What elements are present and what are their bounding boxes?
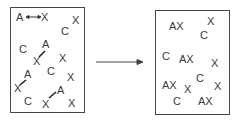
molecule-label: A — [57, 85, 64, 96]
molecule-label: A — [42, 39, 49, 50]
molecule-label: X — [184, 84, 191, 95]
molecule-label: X — [14, 83, 21, 94]
molecule-label: X — [72, 15, 79, 26]
molecule-label: X — [68, 98, 75, 109]
molecule-label: X — [214, 81, 221, 92]
molecule-label: C — [200, 30, 208, 41]
molecule-label: C — [19, 44, 27, 55]
molecule-label: AX — [179, 54, 194, 65]
molecule-label: X — [59, 53, 66, 64]
molecule-label: AX — [198, 96, 213, 107]
molecule-label: X — [67, 72, 74, 83]
molecule-label: A — [16, 12, 23, 23]
molecule-label: X — [42, 99, 49, 110]
molecule-label: A — [24, 69, 31, 80]
molecule-label: X — [33, 56, 40, 67]
molecule-label: C — [162, 51, 170, 62]
molecule-label: C — [61, 26, 69, 37]
molecule-label: X — [41, 12, 48, 23]
molecule-label: X — [207, 16, 214, 27]
molecule-label: C — [24, 96, 32, 107]
molecule-label: C — [196, 73, 204, 84]
molecule-label: AX — [169, 21, 184, 32]
double-arrow-icon — [26, 16, 41, 19]
molecule-label: C — [47, 66, 55, 77]
reaction-arrow-icon — [96, 60, 143, 65]
molecule-label: C — [173, 96, 181, 107]
molecule-label: X — [211, 58, 218, 69]
molecule-label: AX — [162, 80, 177, 91]
